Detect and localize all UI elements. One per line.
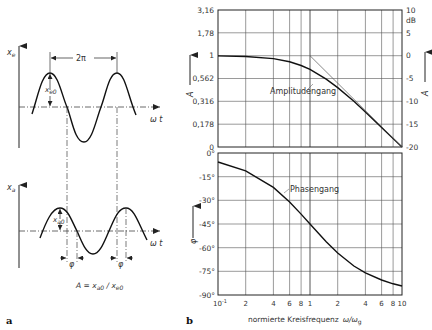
- svg-text:2: 2: [243, 300, 247, 308]
- svg-text:6: 6: [287, 300, 292, 308]
- svg-text:4: 4: [271, 300, 276, 308]
- svg-text:-30°: -30°: [199, 196, 215, 205]
- svg-text:-45°: -45°: [199, 220, 215, 229]
- panel-b: Amplitudengang Phasengang 3,161,781 0,56…: [186, 6, 430, 326]
- phase-shift-label-1: φ: [69, 260, 75, 269]
- svg-text:0: 0: [406, 51, 411, 60]
- x-axis-label: normierte Kreisfrequenzω/ωg: [248, 315, 362, 326]
- input-axis-label: xe: [6, 48, 16, 58]
- svg-text:6: 6: [379, 300, 384, 308]
- svg-text:10: 10: [398, 300, 407, 308]
- svg-text:10: 10: [406, 6, 416, 15]
- svg-text:2: 2: [335, 300, 339, 308]
- amplitude-ratio-formula: A = xa0 / xe0: [75, 281, 124, 291]
- output-amplitude-label: xa0: [52, 216, 65, 225]
- output-time-axis-label: ω t: [150, 239, 163, 248]
- svg-text:0,562: 0,562: [193, 74, 215, 83]
- output-axis-label: xa: [6, 183, 16, 193]
- panel-a: xe ω t 2π xe0 xa ω t xa0: [6, 46, 163, 326]
- amplitude-right-ticks: 1050 -5-10-15 -20: [406, 6, 418, 152]
- panel-b-label: b: [186, 315, 193, 326]
- amplitude-left-ticks: 3,161,781 0,5620,3160,178 0: [193, 6, 215, 152]
- svg-text:3,16: 3,16: [197, 6, 214, 15]
- amplitude-curve-label: Amplitudengang: [270, 87, 336, 96]
- amplitude-left-axis-label: A: [186, 92, 195, 98]
- svg-text:-10: -10: [406, 97, 418, 106]
- svg-text:-90°: -90°: [199, 291, 215, 300]
- svg-text:-15°: -15°: [199, 173, 215, 182]
- svg-text:-15: -15: [406, 120, 418, 129]
- svg-text:-5: -5: [406, 74, 414, 83]
- svg-text:-20: -20: [406, 143, 418, 152]
- db-unit-label: dB: [406, 16, 416, 25]
- phase-ticks: 0°-15°-30° -45°-60°-75° -90°: [199, 149, 215, 300]
- phase-shift-label-2: φ: [118, 260, 124, 269]
- phase-axis-label: φ: [189, 238, 198, 244]
- svg-text:-60°: -60°: [199, 244, 215, 253]
- svg-text:8: 8: [299, 300, 303, 308]
- svg-text:8: 8: [391, 300, 395, 308]
- input-sine-curve: [32, 73, 136, 142]
- figure-canvas: xe ω t 2π xe0 xa ω t xa0: [0, 0, 432, 330]
- svg-text:1: 1: [209, 51, 214, 60]
- svg-text:1: 1: [308, 300, 312, 308]
- x-axis-ticks: 10-1 246 81 246 810: [213, 298, 406, 308]
- svg-text:4: 4: [363, 300, 368, 308]
- input-amplitude-label: xe0: [44, 86, 57, 95]
- svg-text:1,78: 1,78: [197, 29, 214, 38]
- svg-text:10-1: 10-1: [213, 298, 227, 308]
- svg-text:0°: 0°: [206, 149, 215, 158]
- input-time-axis-label: ω t: [150, 115, 163, 124]
- phase-curve-label: Phasengang: [290, 185, 339, 194]
- svg-text:5: 5: [406, 29, 411, 38]
- amplitude-right-axis-label: A: [421, 91, 430, 97]
- panel-a-label: a: [6, 315, 13, 326]
- svg-text:0,316: 0,316: [193, 97, 215, 106]
- svg-text:0,178: 0,178: [193, 120, 215, 129]
- svg-text:-75°: -75°: [199, 267, 215, 276]
- period-label: 2π: [76, 54, 86, 63]
